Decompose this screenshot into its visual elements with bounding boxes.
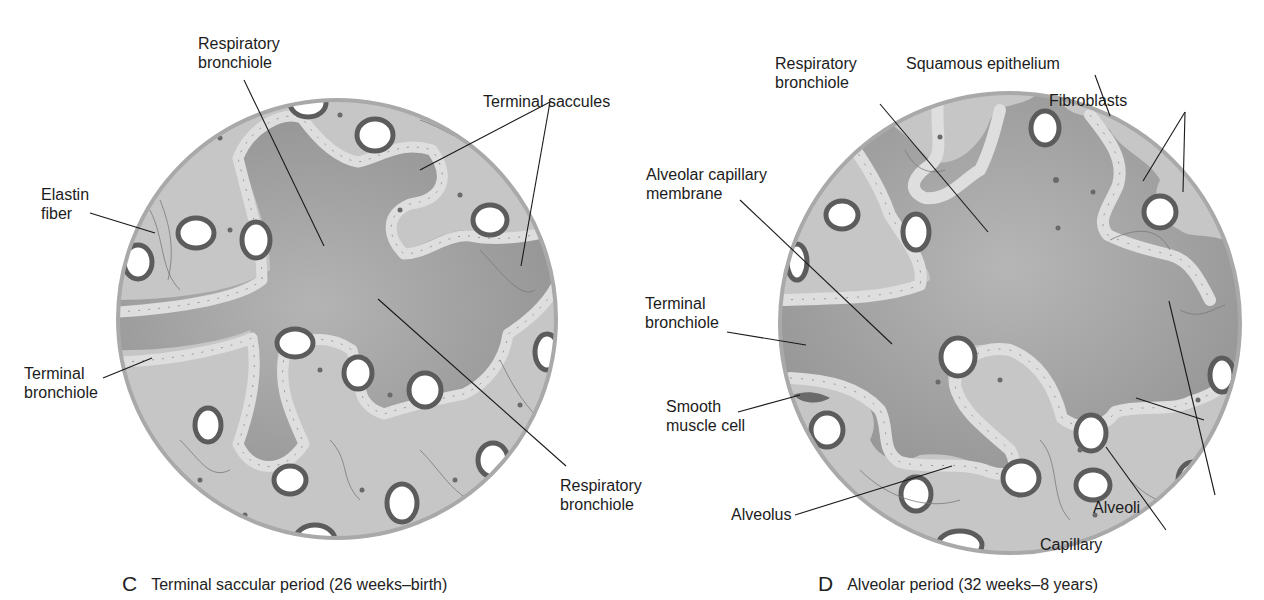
label-c-elastin-fiber: Elastin fiber <box>41 185 89 223</box>
label-c-respiratory-bronchiole-top: Respiratory bronchiole <box>198 34 280 72</box>
label-c-terminal-saccules: Terminal saccules <box>483 92 610 111</box>
panel-letter-c: C <box>122 572 137 595</box>
caption-d-text: Alveolar period (32 weeks–8 years) <box>847 576 1098 593</box>
figure-lung-development: Respiratory bronchiole Terminal saccules… <box>0 0 1264 600</box>
caption-c: CTerminal saccular period (26 weeks–birt… <box>122 574 447 595</box>
caption-c-text: Terminal saccular period (26 weeks–birth… <box>151 576 447 593</box>
label-line-1: Respiratory <box>198 34 280 53</box>
label-d-alveoli: Alveoli <box>1093 498 1140 517</box>
label-d-respiratory-bronchiole: Respiratory bronchiole <box>775 54 857 92</box>
label-c-respiratory-bronchiole-bottom: Respiratory bronchiole <box>560 476 642 514</box>
label-d-alveolar-capillary-membrane: Alveolar capillary membrane <box>646 165 767 203</box>
label-line-1: Respiratory <box>560 476 642 495</box>
label-line-2: bronchiole <box>198 53 280 72</box>
label-line-2: bronchiole <box>560 495 642 514</box>
label-line-1: Terminal <box>645 294 719 313</box>
label-line-2: bronchiole <box>775 73 857 92</box>
label-line-1: Respiratory <box>775 54 857 73</box>
label-d-smooth-muscle-cell: Smooth muscle cell <box>666 397 745 435</box>
label-line-2: bronchiole <box>645 313 719 332</box>
label-d-alveolus: Alveolus <box>731 505 791 524</box>
panel-c-circle <box>110 89 560 555</box>
label-line-2: membrane <box>646 184 767 203</box>
label-line-2: muscle cell <box>666 416 745 435</box>
caption-d: DAlveolar period (32 weeks–8 years) <box>818 574 1098 595</box>
label-line-2: bronchiole <box>24 383 98 402</box>
label-d-capillary: Capillary <box>1040 535 1102 554</box>
label-line-1: Elastin <box>41 185 89 204</box>
label-line-1: Smooth <box>666 397 745 416</box>
panel-letter-d: D <box>818 572 833 595</box>
label-c-terminal-bronchiole: Terminal bronchiole <box>24 364 98 402</box>
label-line-2: fiber <box>41 204 89 223</box>
label-line-1: Terminal <box>24 364 98 383</box>
label-d-fibroblasts: Fibroblasts <box>1049 91 1127 110</box>
label-d-squamous-epithelium: Squamous epithelium <box>906 54 1060 73</box>
label-line-1: Alveolar capillary <box>646 165 767 184</box>
label-d-terminal-bronchiole: Terminal bronchiole <box>645 294 719 332</box>
